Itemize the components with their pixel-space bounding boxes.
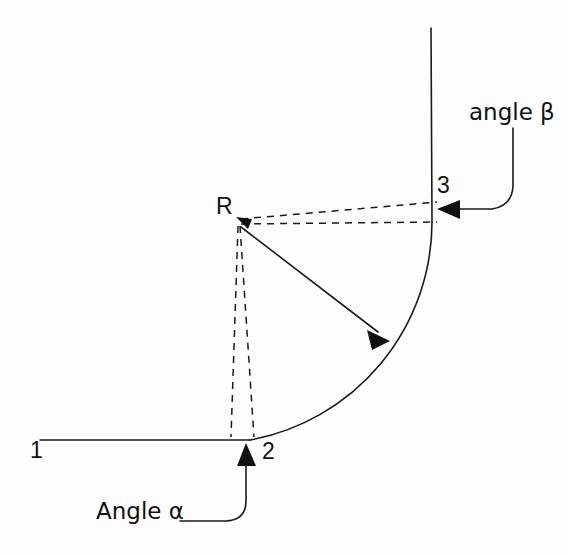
bend-geometry-figure: 1 2 3 R Angle α angle β bbox=[0, 0, 567, 554]
dashed-radius-to-point-3-upper bbox=[241, 202, 437, 219]
label-point-3: 3 bbox=[437, 172, 450, 198]
dashed-radius-to-point-3-lower bbox=[241, 222, 437, 224]
label-radius-center: R bbox=[216, 193, 233, 219]
angle-alpha-leader-line bbox=[180, 464, 246, 521]
angle-alpha-callout bbox=[180, 443, 256, 521]
label-angle-alpha: Angle α bbox=[96, 498, 184, 524]
diagram-canvas: 1 2 3 R Angle α angle β bbox=[0, 0, 567, 554]
dashed-radius-to-point-2-right bbox=[240, 226, 254, 437]
angle-alpha-arrow-head bbox=[237, 443, 256, 466]
angle-beta-arrow-head bbox=[437, 200, 460, 219]
construction-lines bbox=[231, 202, 437, 437]
straight-segment-3-top bbox=[431, 28, 432, 222]
radius-arrow bbox=[241, 227, 390, 350]
angle-beta-leader-line bbox=[455, 128, 513, 209]
profile-outline bbox=[40, 28, 432, 440]
label-point-2: 2 bbox=[262, 438, 275, 464]
label-point-1: 1 bbox=[30, 437, 43, 463]
radius-arrow-shaft bbox=[241, 227, 378, 332]
radius-arrow-head bbox=[367, 330, 390, 350]
dashed-radius-to-point-2-left bbox=[231, 226, 238, 437]
label-angle-beta: angle β bbox=[469, 99, 555, 125]
